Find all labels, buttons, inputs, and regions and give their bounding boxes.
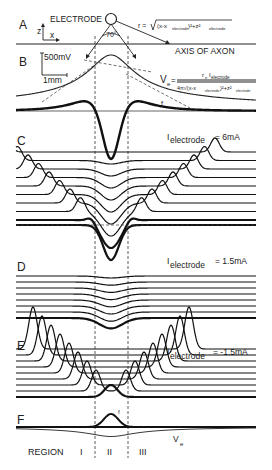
svg-text:)²+z²: )²+z²	[220, 85, 232, 91]
panel-d: D I electrode = 1.5mA	[16, 256, 256, 328]
panel-c: C I electrode = 6mA	[16, 132, 256, 260]
axis-z-label: z	[37, 26, 41, 36]
svg-text:electrode: electrode	[211, 75, 230, 80]
figure-canvas: A z x ELECTRODE 70° r = (x-x electrode )…	[0, 0, 272, 470]
panel-c-label: C	[17, 134, 26, 148]
distance-formula: r = (x-x electrode )²+z² electrode	[138, 20, 232, 31]
svg-text:electrode: electrode	[205, 89, 219, 93]
trace-d	[16, 276, 256, 278]
region-label-3: III	[139, 447, 147, 457]
activating-function-curve	[16, 101, 256, 159]
panel-a-label: A	[19, 18, 27, 32]
traces-c	[16, 138, 256, 260]
scale-voltage-label: 500mV	[44, 52, 71, 62]
f-label-b: f	[161, 100, 163, 107]
trace-d	[16, 288, 256, 292]
axon-label: AXIS OF AXON	[175, 46, 235, 56]
svg-text:=: =	[171, 76, 176, 85]
svg-text:electrode: electrode	[209, 26, 226, 31]
panel-f-label: F	[17, 413, 24, 427]
electrode-label: ELECTRODE	[50, 14, 102, 24]
trace-d	[16, 282, 256, 285]
axes-icon: z x	[37, 23, 60, 42]
trace-c	[16, 147, 256, 164]
trace-d	[16, 294, 256, 300]
field-line-right	[111, 24, 135, 57]
svg-text:electrode: electrode	[170, 351, 205, 361]
panel-f: F f V e	[16, 409, 256, 447]
region-labels: REGION I II III	[28, 447, 147, 457]
svg-text:electrode: electrode	[170, 135, 205, 145]
f-label-f: f	[118, 409, 120, 415]
region-prefix: REGION	[28, 447, 64, 457]
scale-distance-label: 1mm	[43, 75, 62, 85]
svg-text:= 1.5mA: = 1.5mA	[215, 256, 247, 266]
region-label-1: I	[80, 447, 83, 457]
trace-c	[16, 155, 256, 176]
electrode-icon	[106, 14, 117, 25]
panel-d-label: D	[17, 260, 26, 274]
field-line-left	[87, 24, 111, 57]
svg-text:4π√(x-x: 4π√(x-x	[177, 85, 196, 91]
svg-text:e: e	[205, 75, 208, 80]
svg-text:electrode: electrode	[170, 260, 205, 270]
svg-text:V: V	[160, 74, 167, 85]
current-label-d: I electrode = 1.5mA	[167, 256, 247, 270]
svg-text:r =: r =	[138, 22, 146, 29]
axis-x-label: x	[50, 30, 55, 40]
svg-text:r: r	[202, 72, 204, 78]
panel-b: B 500mV 1mm V e = r e I electrode 4π√(x-…	[16, 52, 256, 159]
trace-c	[16, 219, 256, 248]
ve-label-f: V	[173, 434, 179, 444]
trace-c-initial	[16, 225, 256, 260]
angle-label: 70°	[106, 31, 117, 38]
ve-formula: V e = r e I electrode 4π√(x-x electrode …	[160, 72, 256, 93]
panel-e: E I electrode = -1.5mA	[16, 307, 256, 397]
traces-d	[16, 276, 256, 328]
svg-text:(x-x: (x-x	[157, 23, 167, 29]
ve-sub-f: e	[180, 441, 184, 447]
region-label-2: II	[107, 447, 112, 457]
svg-text:= 6mA: = 6mA	[215, 132, 240, 142]
svg-text:electrode: electrode	[172, 26, 189, 31]
ve-curve-f	[16, 428, 256, 437]
panel-b-label: B	[19, 55, 27, 69]
activating-function-f	[88, 414, 134, 427]
svg-text:)²+z²: )²+z²	[188, 23, 201, 29]
current-label-c: I electrode = 6mA	[167, 132, 240, 145]
svg-text:electrode: electrode	[236, 89, 250, 93]
